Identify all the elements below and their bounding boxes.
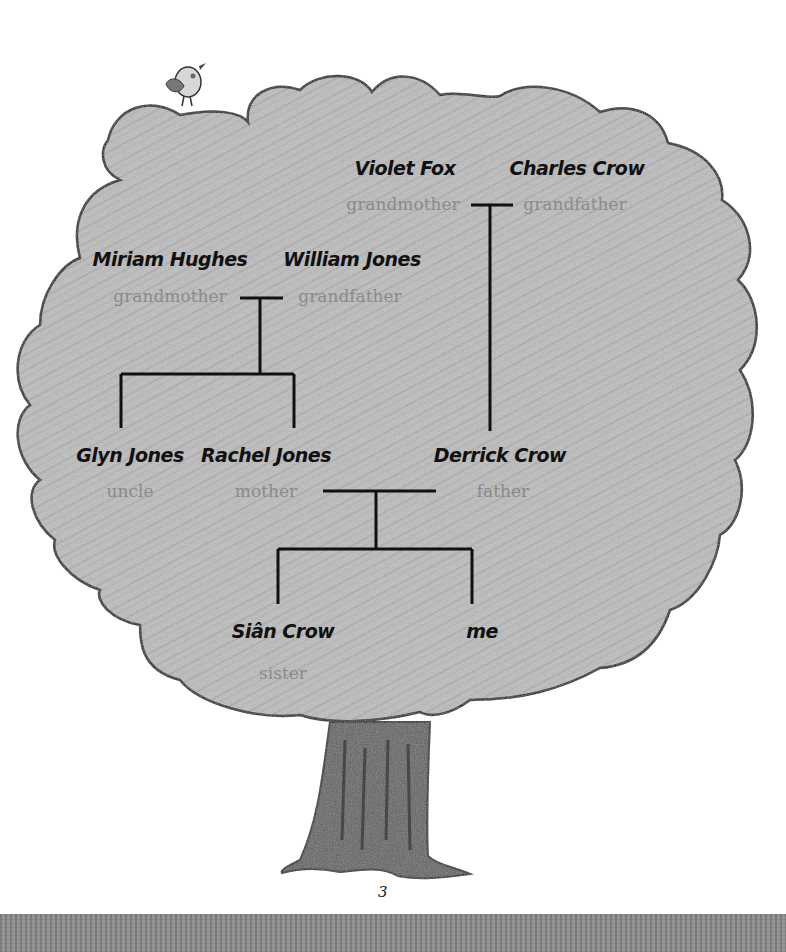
- member-name: Violet Fox: [355, 157, 456, 179]
- member-name: Rachel Jones: [201, 444, 331, 466]
- member-role: mother: [235, 481, 297, 501]
- member-role: grandmother: [113, 286, 226, 306]
- member-role: sister: [259, 663, 307, 683]
- member-name: Derrick Crow: [434, 444, 566, 466]
- member-name: Miriam Hughes: [93, 248, 248, 270]
- member-role: grandfather: [523, 194, 626, 214]
- member-name: Siân Crow: [232, 620, 335, 642]
- bird-icon: [166, 63, 206, 106]
- member-role: father: [477, 481, 529, 501]
- member-name: me: [466, 620, 498, 642]
- member-name: Charles Crow: [510, 157, 645, 179]
- member-name: William Jones: [283, 248, 421, 270]
- member-role: grandmother: [346, 194, 459, 214]
- ground-texture: [0, 914, 786, 952]
- family-tree-page: Violet Fox grandmother Charles Crow gran…: [0, 0, 786, 952]
- page-number: 3: [378, 883, 388, 901]
- tree-trunk: [282, 722, 470, 878]
- member-name: Glyn Jones: [76, 444, 183, 466]
- tree-illustration: [0, 0, 786, 952]
- member-role: grandfather: [298, 286, 401, 306]
- member-role: uncle: [107, 481, 154, 501]
